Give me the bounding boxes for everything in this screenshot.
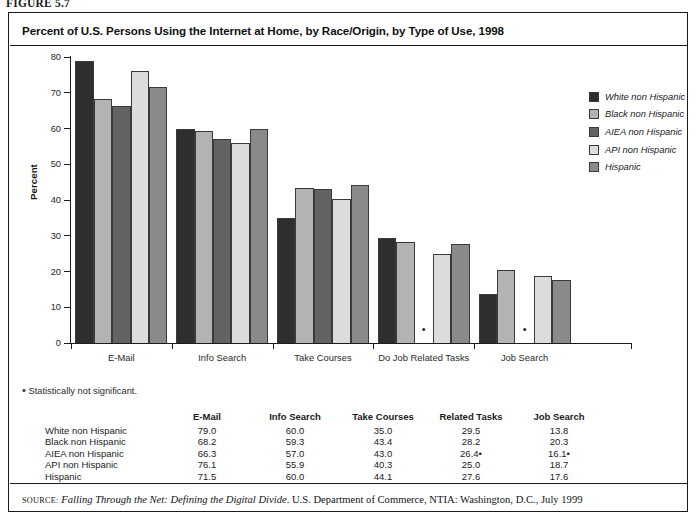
table-row-label: White non Hispanic bbox=[45, 425, 163, 437]
table-corner-cell bbox=[45, 411, 163, 425]
table-column-header: Related Tasks bbox=[427, 411, 515, 425]
bar bbox=[332, 199, 350, 343]
source-title: Falling Through the Net: Defining the Di… bbox=[61, 494, 286, 505]
bar bbox=[277, 218, 295, 343]
legend-item: Hispanic bbox=[589, 158, 685, 176]
y-tick-mark bbox=[64, 92, 70, 93]
bar bbox=[131, 71, 149, 343]
footnote-marker: • bbox=[22, 384, 26, 396]
bar bbox=[396, 242, 414, 343]
footnote-text: Statistically not significant. bbox=[28, 386, 137, 396]
title-divider bbox=[10, 45, 687, 46]
not-significant-marker: • bbox=[415, 326, 433, 332]
figure-frame: Percent of U.S. Persons Using the Intern… bbox=[8, 12, 688, 512]
y-axis-title: Percent bbox=[28, 164, 39, 200]
table-column-header: Take Courses bbox=[339, 411, 427, 425]
bar bbox=[433, 254, 451, 343]
table-row: Hispanic71.560.044.127.617.6 bbox=[45, 471, 603, 483]
bar bbox=[75, 61, 93, 343]
table-cell: 68.2 bbox=[163, 436, 251, 448]
legend-label: Black non Hispanic bbox=[605, 109, 684, 119]
y-tick-mark bbox=[64, 200, 70, 201]
source-divider bbox=[10, 483, 687, 484]
bar bbox=[176, 129, 194, 344]
bar bbox=[497, 270, 515, 343]
table-cell: 26.4• bbox=[427, 448, 515, 460]
table-cell: 35.0 bbox=[339, 425, 427, 437]
x-axis-group-separator bbox=[273, 343, 274, 349]
source-rest: . U.S. Department of Commerce, NTIA: Was… bbox=[287, 494, 583, 505]
footnote: • Statistically not significant. bbox=[22, 384, 137, 396]
bar bbox=[552, 280, 570, 343]
y-tick-label: 40 bbox=[41, 195, 61, 205]
y-tick-mark bbox=[64, 271, 70, 272]
bar bbox=[112, 106, 130, 343]
table-cell: 71.5 bbox=[163, 471, 251, 483]
legend-swatch-icon bbox=[589, 109, 599, 119]
table-cell: 40.3 bbox=[339, 459, 427, 471]
table-cell: 57.0 bbox=[251, 448, 339, 460]
table-cell: 43.0 bbox=[339, 448, 427, 460]
table-column-header: Info Search bbox=[251, 411, 339, 425]
legend-label: Hispanic bbox=[605, 162, 641, 172]
x-axis-category-label: Info Search bbox=[198, 352, 246, 363]
legend-label: White non Hispanic bbox=[605, 92, 685, 102]
legend-swatch-icon bbox=[589, 145, 599, 155]
legend-item: AIEA non Hispanic bbox=[589, 123, 685, 141]
source-prefix: SOURCE bbox=[22, 496, 56, 505]
bar bbox=[295, 188, 313, 343]
table-header-row: E-MailInfo SearchTake CoursesRelated Tas… bbox=[45, 411, 603, 425]
table-cell: 16.1• bbox=[515, 448, 603, 460]
y-tick-label: 50 bbox=[41, 159, 61, 169]
table-cell: 76.1 bbox=[163, 459, 251, 471]
y-tick-label: 70 bbox=[41, 88, 61, 98]
table-cell: 17.6 bbox=[515, 471, 603, 483]
chart-legend: White non HispanicBlack non HispanicAIEA… bbox=[589, 88, 685, 176]
table-row-label: Hispanic bbox=[45, 471, 163, 483]
table-cell: 60.0 bbox=[251, 425, 339, 437]
figure-title: Percent of U.S. Persons Using the Intern… bbox=[22, 24, 662, 37]
plot-area: •• bbox=[71, 57, 575, 343]
bar bbox=[351, 185, 369, 343]
y-tick-label: 80 bbox=[41, 52, 61, 62]
source-note: SOURCE: Falling Through the Net: Definin… bbox=[22, 494, 672, 505]
table-cell: 59.3 bbox=[251, 436, 339, 448]
x-axis-group-separator bbox=[373, 343, 374, 349]
not-significant-marker: • bbox=[515, 326, 533, 332]
bar: • bbox=[415, 313, 433, 343]
data-table: E-MailInfo SearchTake CoursesRelated Tas… bbox=[45, 411, 603, 483]
table-cell: 29.5 bbox=[427, 425, 515, 437]
y-tick-mark bbox=[64, 164, 70, 165]
x-axis-category-label: Do Job Related Tasks bbox=[378, 352, 469, 363]
x-axis-group-separator bbox=[474, 343, 475, 349]
x-axis-group-separator bbox=[172, 343, 173, 349]
table-cell: 27.6 bbox=[427, 471, 515, 483]
bar: • bbox=[515, 313, 533, 343]
bar-group bbox=[75, 57, 167, 343]
y-tick-mark bbox=[64, 235, 70, 236]
bar bbox=[314, 189, 332, 343]
table-cell: 44.1 bbox=[339, 471, 427, 483]
legend-item: White non Hispanic bbox=[589, 88, 685, 106]
table-column-header: E-Mail bbox=[163, 411, 251, 425]
legend-label: AIEA non Hispanic bbox=[605, 127, 682, 137]
y-tick-label: 30 bbox=[41, 231, 61, 241]
x-axis-end-tick bbox=[631, 343, 632, 349]
source-colon: : bbox=[56, 496, 59, 505]
x-axis-start-tick bbox=[71, 343, 72, 349]
table-row: API non Hispanic76.155.940.325.018.7 bbox=[45, 459, 603, 471]
table-cell: 13.8 bbox=[515, 425, 603, 437]
table-row: Black non Hispanic68.259.343.428.220.3 bbox=[45, 436, 603, 448]
bar bbox=[213, 139, 231, 343]
y-tick-label: 0 bbox=[41, 338, 61, 348]
table-cell: 79.0 bbox=[163, 425, 251, 437]
bar bbox=[231, 143, 249, 343]
y-tick-mark bbox=[64, 307, 70, 308]
bar bbox=[534, 276, 552, 343]
legend-item: Black non Hispanic bbox=[589, 106, 685, 124]
figure-container: FIGURE 5.7 Percent of U.S. Persons Using… bbox=[0, 0, 696, 520]
bar bbox=[479, 294, 497, 343]
table-row-label: Black non Hispanic bbox=[45, 436, 163, 448]
figure-number: FIGURE 5.7 bbox=[6, 0, 70, 9]
legend-label: API non Hispanic bbox=[605, 145, 676, 155]
